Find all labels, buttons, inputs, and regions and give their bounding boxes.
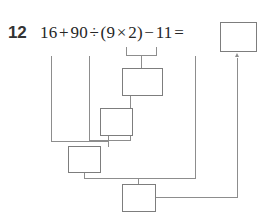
operand-11-drop-line [195, 56, 196, 179]
worksheet-problem: 12 16 + 90 ÷ (9 × 2) − 11 = [0, 0, 267, 220]
work-box-step-4[interactable] [122, 184, 156, 212]
step1-out-stem [130, 95, 131, 109]
work-box-step-2[interactable] [100, 108, 133, 136]
work-box-step-3[interactable] [68, 146, 101, 173]
result-bar [155, 197, 238, 198]
step3-to-step4-bar [84, 178, 196, 179]
step2-to-step3-bar [51, 141, 109, 142]
arrow-up-icon [235, 53, 239, 57]
paren-bracket-stem [141, 55, 142, 69]
problem-number: 12 [8, 23, 26, 43]
answer-box[interactable] [220, 22, 257, 52]
operand-16-drop-line [51, 56, 52, 142]
operand-90-drop-line [89, 56, 90, 141]
paren-bracket-right-stub [156, 47, 157, 56]
result-riser [237, 58, 238, 198]
work-box-step-1[interactable] [122, 68, 163, 96]
equation-expression: 16 + 90 ÷ (9 × 2) − 11 = [40, 23, 184, 43]
